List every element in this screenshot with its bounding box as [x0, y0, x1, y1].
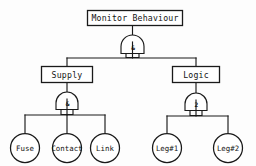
- gate-logic-symbol: 2: [195, 101, 199, 108]
- basic-event-contact[interactable]: Contact: [51, 134, 82, 163]
- diagram-canvas: Monitor Behaviour & Supply Logic &: [0, 0, 256, 166]
- logic-label: Logic: [183, 70, 209, 80]
- supply-label: Supply: [52, 70, 83, 80]
- node-logic[interactable]: Logic: [173, 67, 220, 83]
- top-event-label: Monitor Behaviour: [91, 13, 178, 23]
- gate-top-symbol: &: [131, 44, 135, 51]
- fuse-label: Fuse: [16, 144, 34, 153]
- basic-event-link[interactable]: Link: [91, 134, 120, 163]
- basic-event-leg2[interactable]: Leg#2: [214, 134, 243, 163]
- basic-event-leg1[interactable]: Leg#1: [153, 134, 182, 163]
- node-top-event[interactable]: Monitor Behaviour: [88, 11, 183, 26]
- fault-tree-diagram: Monitor Behaviour & Supply Logic &: [0, 0, 256, 166]
- link-label: Link: [96, 144, 114, 153]
- contact-label: Contact: [51, 144, 82, 153]
- gate-supply-symbol: &: [66, 100, 70, 107]
- node-supply[interactable]: Supply: [42, 67, 93, 83]
- leg2-label: Leg#2: [217, 144, 239, 153]
- leg1-label: Leg#1: [156, 144, 178, 153]
- basic-event-fuse[interactable]: Fuse: [11, 134, 40, 163]
